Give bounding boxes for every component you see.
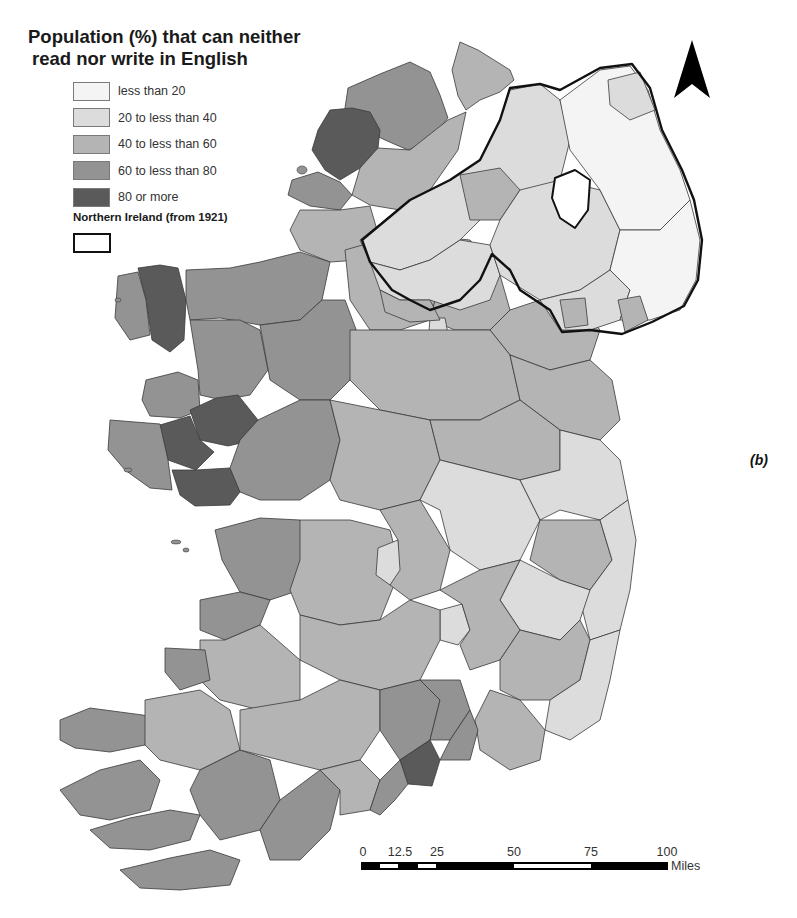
legend-item: 40 to less than 60	[73, 131, 217, 158]
legend-swatch	[73, 108, 110, 127]
region-mizen	[120, 850, 240, 890]
map-title-line1: Population (%) that can neither	[28, 26, 300, 48]
scale-tick: 12.5	[388, 845, 412, 859]
scale-tick: 25	[430, 845, 444, 859]
northern-ireland-legend-label: Northern Ireland (from 1921)	[73, 211, 228, 223]
region-meath	[350, 330, 520, 420]
island	[115, 298, 121, 302]
legend-swatch	[73, 161, 110, 180]
legend-label: 40 to less than 60	[118, 137, 217, 151]
legend-label: 80 or more	[118, 190, 178, 204]
island	[183, 548, 189, 552]
scale-bar: 0 12.5 25 50 75 100 Miles	[355, 845, 685, 885]
north-arrow-icon	[672, 36, 712, 100]
island	[297, 166, 307, 174]
region-wexford-south	[475, 690, 545, 770]
panel-label: (b)	[750, 452, 768, 468]
region-inishowen	[452, 42, 514, 110]
map-title-line2: read nor write in English	[28, 48, 300, 70]
legend-swatch	[73, 82, 110, 101]
legend-item: less than 20	[73, 78, 217, 105]
scale-tick: 0	[360, 845, 367, 859]
scale-unit: Miles	[671, 859, 700, 873]
legend: less than 20 20 to less than 40 40 to le…	[73, 78, 217, 211]
northern-ireland-legend-swatch	[73, 233, 111, 253]
region-ni-armagh-gray	[560, 298, 588, 328]
legend-label: 20 to less than 40	[118, 111, 217, 125]
legend-swatch	[73, 188, 110, 207]
scale-tick: 75	[584, 845, 598, 859]
region-iveragh	[60, 760, 160, 820]
region-mayo-central	[190, 320, 268, 400]
scale-bar-graphic	[361, 862, 668, 870]
island	[171, 540, 181, 544]
region-dingle	[60, 708, 150, 752]
island	[124, 468, 132, 472]
region-kerry-north	[200, 625, 300, 710]
legend-label: 60 to less than 80	[118, 164, 217, 178]
legend-item: 20 to less than 40	[73, 105, 217, 132]
scale-tick: 50	[507, 845, 521, 859]
legend-label: less than 20	[118, 84, 185, 98]
legend-item: 60 to less than 80	[73, 158, 217, 185]
scale-tick: 100	[657, 845, 678, 859]
map-title: Population (%) that can neither read nor…	[28, 26, 300, 70]
legend-swatch	[73, 135, 110, 154]
legend-item: 80 or more	[73, 184, 217, 211]
region-connemara-dark-2	[172, 468, 240, 506]
